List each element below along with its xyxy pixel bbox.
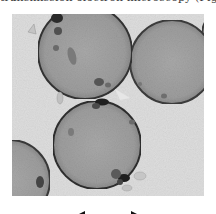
double-arrow-icon [76,208,140,214]
figure-caption-fragment: transmission electron microscopy (Fig. 2 [0,0,216,4]
cell-upper-right [130,20,204,104]
scale-bar [76,205,140,214]
tem-micrograph [12,14,204,196]
